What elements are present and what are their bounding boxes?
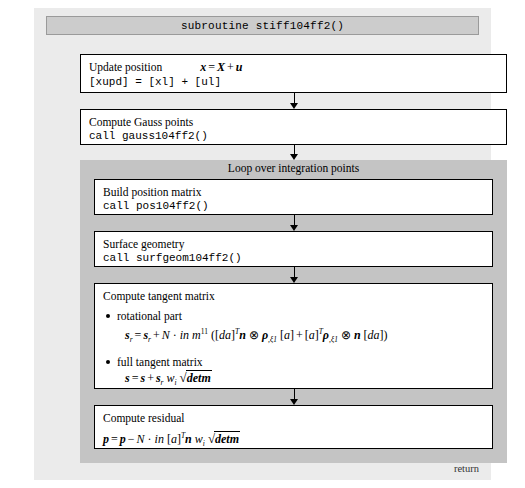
update-position-formula: x=X+u: [200, 60, 242, 74]
tangent-bullet-rotational: rotational part sr=sr+N · in m11 ([da]Tn…: [117, 310, 484, 347]
compute-gauss-label: Compute Gauss points: [89, 115, 498, 129]
step-compute-residual: Compute residual p=p−N · in [a]Tn wi √de…: [94, 405, 493, 449]
full-tangent-formula: s=s+sr wi √detm: [117, 370, 484, 390]
compute-residual-label: Compute residual: [103, 411, 484, 425]
step-compute-gauss-points: Compute Gauss points call gauss104ff2(): [80, 109, 507, 145]
rotational-part-label: rotational part: [117, 310, 484, 322]
page-title: subroutine stiff104ff2(): [181, 20, 344, 32]
tangent-bullet-full: full tangent matrix s=s+sr wi √detm: [117, 356, 484, 390]
surface-geometry-code: call surfgeom104ff2(): [103, 251, 484, 265]
bullet-dot-icon: [106, 314, 110, 318]
step-compute-tangent-matrix: Compute tangent matrix rotational part s…: [94, 283, 493, 389]
surface-geometry-label: Surface geometry: [103, 237, 484, 251]
arrow-gauss-to-loop: [290, 145, 299, 160]
update-position-label: Update position: [89, 61, 162, 73]
flowchart-page: subroutine stiff104ff2() Update position…: [0, 0, 525, 488]
loop-over-integration-points: Loop over integration points Build posit…: [80, 160, 507, 463]
rotational-part-formula: sr=sr+N · in m11 ([da]Tn ⊗ ρ,ξ1 [a]+[a]T…: [117, 324, 484, 347]
subroutine-container: subroutine stiff104ff2() Update position…: [34, 8, 491, 480]
step-surface-geometry: Surface geometry call surfgeom104ff2(): [94, 231, 493, 267]
arrow-update-to-gauss: [290, 93, 299, 109]
subroutine-title-bar: subroutine stiff104ff2(): [46, 16, 479, 35]
build-position-label: Build position matrix: [103, 185, 484, 199]
return-label: return: [454, 463, 479, 474]
arrow-position-to-surfgeom: [290, 215, 299, 231]
bullet-dot-icon: [106, 360, 110, 364]
arrow-tangent-to-residual: [290, 389, 299, 405]
update-position-row: Update positionx=X+u: [89, 60, 498, 75]
update-position-code: [xupd] = [xl] + [ul]: [89, 75, 498, 89]
arrow-surfgeom-to-tangent: [290, 267, 299, 283]
compute-tangent-label: Compute tangent matrix: [103, 289, 484, 303]
build-position-code: call pos104ff2(): [103, 199, 484, 213]
full-tangent-label: full tangent matrix: [117, 356, 484, 368]
compute-residual-formula: p=p−N · in [a]Tn wi √detm: [103, 425, 484, 451]
compute-gauss-code: call gauss104ff2(): [89, 129, 498, 143]
step-update-position: Update positionx=X+u [xupd] = [xl] + [ul…: [80, 54, 507, 93]
step-build-position-matrix: Build position matrix call pos104ff2(): [94, 179, 493, 215]
tangent-bullet-list: rotational part sr=sr+N · in m11 ([da]Tn…: [103, 310, 484, 391]
loop-title: Loop over integration points: [80, 162, 507, 174]
